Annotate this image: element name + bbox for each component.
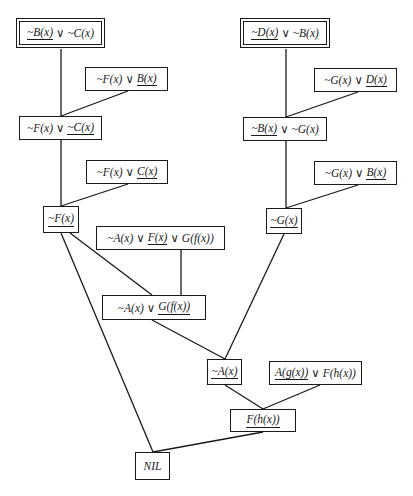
goal-clause-box: ~D(x)∨~B(x) (243, 21, 327, 45)
literal: NIL (144, 460, 162, 472)
or-operator: ∨ (351, 73, 365, 87)
edge-n4-n6 (286, 92, 358, 117)
resolved-literal: ~G(x) (270, 214, 297, 228)
edge-n13-n15 (225, 385, 263, 409)
literal: G(f(x)) (182, 232, 214, 244)
edge-n15-n16 (153, 432, 263, 452)
or-operator: ∨ (53, 121, 67, 135)
resolved-literal: C(x) (137, 165, 157, 179)
clause-box: ~A(x)∨G(f(x)) (102, 295, 206, 320)
resolved-literal: B(x) (366, 166, 386, 180)
resolved-literal: ~A(x) (211, 365, 237, 379)
resolved-literal: B(x) (137, 72, 157, 86)
resolved-literal: ~D(x) (251, 26, 278, 40)
or-operator: ∨ (277, 122, 291, 136)
resolved-literal: ~F(x) (48, 212, 74, 226)
literal: ~B(x) (293, 27, 319, 39)
edge-n7-n9 (61, 184, 128, 206)
or-operator: ∨ (123, 165, 137, 179)
or-operator: ∨ (308, 366, 322, 380)
edge-n8-n10 (286, 185, 358, 208)
literal: ~F(x) (96, 73, 122, 85)
clause-box: NIL (135, 452, 170, 480)
or-operator: ∨ (167, 231, 181, 245)
clause-box: ~F(x) (43, 206, 79, 233)
clause-box: ~A(x)∨F(x)∨G(f(x)) (96, 226, 225, 250)
clause-box: ~F(x)∨C(x) (86, 160, 168, 184)
resolved-literal: D(x) (366, 73, 387, 87)
edge-n10-n13 (225, 234, 284, 359)
resolved-literal: ~B(x) (27, 26, 53, 40)
literal: ~A(x) (118, 302, 144, 314)
literal: ~F(x) (97, 166, 123, 178)
resolved-literal: ~C(x) (67, 121, 94, 135)
literal: ~G(x) (292, 123, 319, 135)
edge-n9-n16 (61, 233, 153, 452)
resolved-literal: ~B(x) (251, 122, 277, 136)
literal: F(h(x)) (323, 367, 356, 379)
clause-box: A(g(x))∨F(h(x)) (269, 361, 362, 385)
or-operator: ∨ (133, 231, 147, 245)
clause-box: ~B(x)∨~G(x) (243, 117, 327, 141)
or-operator: ∨ (352, 166, 366, 180)
or-operator: ∨ (278, 26, 292, 40)
resolved-literal: F(h(x)) (246, 413, 279, 427)
edge-n14-n15 (263, 385, 320, 409)
clause-box: ~G(x)∨B(x) (314, 161, 397, 185)
clause-box: ~F(x)∨B(x) (85, 67, 168, 91)
literal: ~G(x) (325, 167, 352, 179)
clause-box: ~A(x) (207, 359, 242, 385)
clause-box: ~F(x)∨~C(x) (19, 116, 102, 140)
clause-box: F(h(x)) (230, 409, 296, 432)
resolved-literal: A(g(x)) (275, 366, 308, 380)
clause-box: ~G(x) (266, 208, 302, 234)
resolved-literal: G(f(x)) (158, 300, 190, 314)
literal: ~C(x) (67, 27, 94, 39)
goal-clause-box: ~B(x)∨~C(x) (19, 21, 102, 45)
edge-n12-n13 (152, 320, 225, 359)
or-operator: ∨ (53, 26, 67, 40)
or-operator: ∨ (122, 72, 136, 86)
edge-n3-n5 (61, 91, 128, 116)
or-operator: ∨ (144, 301, 158, 315)
literal: ~G(x) (324, 74, 351, 86)
literal: ~A(x) (107, 232, 133, 244)
literal: ~F(x) (27, 122, 53, 134)
resolved-literal: F(x) (148, 231, 168, 245)
clause-box: ~G(x)∨D(x) (314, 68, 397, 92)
resolution-tree-diagram: ~B(x)∨~C(x)~D(x)∨~B(x)~F(x)∨B(x)~G(x)∨D(… (0, 0, 413, 496)
